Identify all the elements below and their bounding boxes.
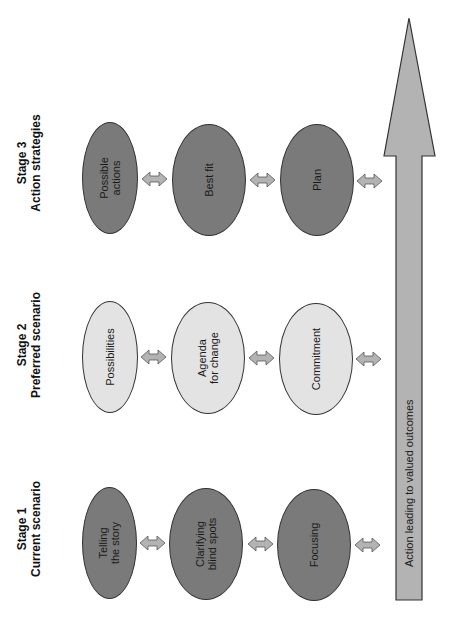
node-focusing: Focusing [277,489,351,601]
node-telling-the-story: Telling the story [82,487,137,599]
node-label: Clarifying blind spots [194,518,218,571]
node-best-fit: Best fit [172,124,246,236]
node-plan: Plan [280,124,354,236]
double-arrow-icon [248,537,273,551]
node-possible-actions: Possible actions [82,122,138,234]
node-label: Best fit [203,163,215,197]
node-label: Commitment [310,328,322,390]
node-label: Plan [311,169,323,191]
node-label: Possibilities [104,328,116,385]
big-arrow-label: Action leading to valued outcomes [403,399,415,567]
node-label: Focusing [308,523,320,568]
double-arrow-icon [249,351,274,365]
double-arrow-icon [355,538,380,552]
double-arrow-icon [357,174,382,188]
double-arrow-icon [356,352,381,366]
node-label: Telling the story [98,522,122,564]
node-label: Possible actions [98,157,122,199]
double-arrow-icon [250,173,275,187]
node-possibilities: Possibilities [82,301,138,413]
double-arrow-icon [141,350,166,364]
node-commitment: Commitment [279,303,353,415]
node-clarifying-blind-spots: Clarifying blind spots [169,488,243,600]
node-label: Agenda for change [196,332,220,384]
double-arrow-icon [142,172,167,186]
double-arrow-icon [140,536,165,550]
node-agenda-for-change: Agenda for change [171,302,245,414]
